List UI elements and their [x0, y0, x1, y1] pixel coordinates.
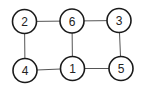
node-4: 4: [13, 59, 37, 83]
node-label: 4: [22, 64, 29, 78]
node-3: 3: [107, 9, 131, 33]
node-label: 6: [69, 15, 76, 29]
node-5: 5: [109, 57, 133, 81]
node-label: 1: [69, 62, 76, 76]
node-6: 6: [60, 9, 84, 33]
node-label: 5: [118, 62, 125, 76]
node-1: 1: [61, 57, 85, 81]
graph-diagram: 2 6 3 4 1 5: [0, 0, 144, 87]
node-label: 2: [21, 15, 28, 29]
node-label: 3: [116, 14, 123, 28]
node-2: 2: [13, 10, 37, 34]
